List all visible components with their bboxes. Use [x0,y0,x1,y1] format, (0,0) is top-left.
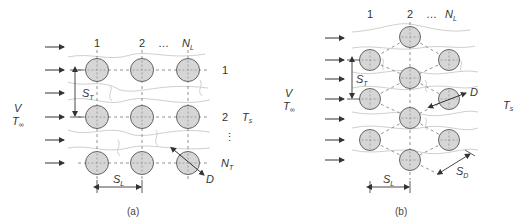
diagonal-pitch-label-b: SD [456,165,468,179]
tube [177,106,200,129]
tube [86,59,109,82]
tube [86,152,109,175]
row-ellipsis: ⋮ [224,131,235,143]
tube [400,108,421,129]
caption-b: (b) [395,206,407,217]
inlet-temp-label-b: T∞ [283,100,295,113]
longitudinal-pitch-label-b: SL [383,173,394,187]
surface-temp-label-a: Ts [242,111,253,124]
tube [439,50,460,71]
inlet-arrows-a [45,47,64,163]
tube [360,130,381,151]
tubes-b [360,27,460,171]
tube [360,50,381,71]
longitudinal-pitch-dimension-a: SL [97,173,142,193]
column-ellipsis: … [158,37,169,49]
column-label-nl-b: NL [445,8,457,22]
row-label-1: 1 [222,64,228,76]
surface-temp-label-b: Ts [503,99,514,112]
velocity-label-b: V [285,87,294,99]
tube [400,150,421,171]
tube [131,59,154,82]
tube-bank-diagram: 1 2 … NL 1 2 ⋮ NT V T∞ Ts ST SL D [0,0,527,223]
tube [86,106,109,129]
tube [131,152,154,175]
tube [360,89,381,110]
panel-b: 1 2 … NL V T∞ Ts ST SL SD D [283,8,514,217]
diameter-label-a: D [206,173,214,185]
column-label-1-b: 1 [367,8,373,20]
column-ellipsis-b: … [426,8,437,20]
velocity-label-a: V [14,102,23,114]
longitudinal-pitch-dimension-b: SL [370,173,410,193]
column-label-nl: NL [182,37,194,51]
transverse-pitch-label-a: ST [82,87,94,101]
row-label-nt: NT [221,157,234,171]
tube [400,27,421,48]
column-label-2-b: 2 [407,8,413,20]
diagonal-pitch-dimension-b: SD [441,150,475,179]
tube [400,68,421,89]
column-label-1: 1 [94,37,100,49]
column-label-2: 2 [139,37,145,49]
panel-a: 1 2 … NL 1 2 ⋮ NT V T∞ Ts ST SL D [12,37,253,217]
transverse-pitch-label-b: ST [356,73,368,87]
tube [131,106,154,129]
row-label-2: 2 [222,111,228,123]
inlet-arrows-b [325,38,344,160]
inlet-temp-label-a: T∞ [12,115,24,128]
longitudinal-pitch-label-a: SL [113,173,124,187]
caption-a: (a) [127,206,139,217]
tube [177,59,200,82]
tube [439,130,460,151]
diameter-label-b: D [470,86,478,98]
